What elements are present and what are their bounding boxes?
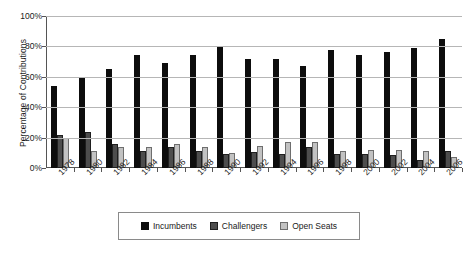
bar-group bbox=[212, 16, 240, 168]
gridline bbox=[46, 77, 462, 78]
y-axis-tick-label: 40% bbox=[2, 102, 42, 112]
y-axis-tick bbox=[42, 46, 46, 47]
bar-group bbox=[240, 16, 268, 168]
legend-item-incumbents: Incumbents bbox=[141, 221, 197, 231]
bars-layer bbox=[46, 16, 462, 168]
x-axis-tick-labels: 1978198019821984198619881990199219941996… bbox=[46, 170, 462, 214]
legend-label-challengers: Challengers bbox=[222, 221, 267, 231]
gridline bbox=[46, 16, 462, 17]
x-axis-tick bbox=[462, 168, 463, 172]
gridline bbox=[46, 46, 462, 47]
bar-incumbents-1998 bbox=[328, 50, 334, 168]
bar-group bbox=[46, 16, 74, 168]
bar-group bbox=[407, 16, 435, 168]
gridline bbox=[46, 138, 462, 139]
bar-incumbents-2006 bbox=[439, 39, 445, 168]
chart-legend: Incumbents Challengers Open Seats bbox=[118, 212, 360, 240]
y-axis-tick-label: 60% bbox=[2, 72, 42, 82]
legend-swatch-icon-incumbents bbox=[141, 222, 149, 230]
bar-group bbox=[379, 16, 407, 168]
bar-group bbox=[268, 16, 296, 168]
bar-group bbox=[185, 16, 213, 168]
bar-group bbox=[296, 16, 324, 168]
y-axis-tick bbox=[42, 77, 46, 78]
y-axis-tick bbox=[42, 107, 46, 108]
bar-incumbents-2002 bbox=[384, 52, 390, 168]
legend-swatch-icon-challengers bbox=[210, 222, 218, 230]
bar-incumbents-1994 bbox=[273, 59, 279, 168]
y-axis-tick-label: 80% bbox=[2, 41, 42, 51]
plot-area-wrapper bbox=[46, 16, 462, 168]
bar-group bbox=[157, 16, 185, 168]
y-axis-tick-label: 100% bbox=[2, 11, 42, 21]
y-axis-tick-label: 0% bbox=[2, 163, 42, 173]
bar-group bbox=[101, 16, 129, 168]
legend-label-open-seats: Open Seats bbox=[292, 221, 337, 231]
legend-label-incumbents: Incumbents bbox=[153, 221, 197, 231]
bar-group bbox=[434, 16, 462, 168]
y-axis-tick bbox=[42, 16, 46, 17]
legend-item-open-seats: Open Seats bbox=[280, 221, 337, 231]
y-axis-tick-labels: 0%20%40%60%80%100% bbox=[0, 16, 42, 168]
legend-item-challengers: Challengers bbox=[210, 221, 267, 231]
bar-group bbox=[323, 16, 351, 168]
bar-group bbox=[129, 16, 157, 168]
y-axis-tick bbox=[42, 168, 46, 169]
y-axis-tick bbox=[42, 138, 46, 139]
legend-swatch-icon-open-seats bbox=[280, 222, 288, 230]
bar-incumbents-2000 bbox=[356, 55, 362, 168]
bar-group bbox=[351, 16, 379, 168]
y-axis-tick-label: 20% bbox=[2, 133, 42, 143]
bar-group bbox=[74, 16, 102, 168]
bar-chart: Percentage of Contributions 0%20%40%60%8… bbox=[0, 0, 473, 253]
gridline bbox=[46, 107, 462, 108]
